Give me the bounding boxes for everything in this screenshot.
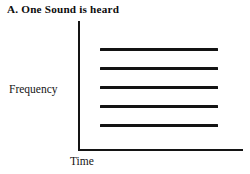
figure-caption-text: One Sound is heard [21, 3, 119, 15]
figure-panel: A.One Sound is heard Frequency Time [0, 0, 250, 174]
figure-caption: A.One Sound is heard [7, 2, 121, 16]
x-axis-label: Time [70, 154, 94, 168]
frequency-line [100, 105, 218, 108]
frequency-line [100, 67, 218, 70]
y-axis-line [78, 21, 80, 151]
x-axis-line [78, 149, 243, 151]
frequency-line [100, 86, 218, 89]
figure-caption-label: A. [7, 3, 18, 15]
y-axis-label: Frequency [9, 82, 58, 96]
frequency-line [100, 124, 218, 127]
frequency-line [100, 48, 218, 51]
